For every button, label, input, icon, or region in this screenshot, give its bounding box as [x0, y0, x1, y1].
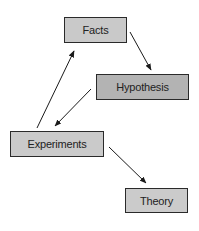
node-theory-label: Theory [140, 195, 173, 207]
node-theory: Theory [125, 188, 188, 213]
arrow-hypothesis-to-experiments [55, 89, 91, 126]
node-experiments: Experiments [10, 131, 104, 157]
node-facts: Facts [64, 17, 127, 43]
node-experiments-label: Experiments [28, 138, 87, 150]
arrow-experiments-to-facts [37, 51, 74, 128]
arrow-facts-to-hypothesis [130, 32, 151, 70]
node-facts-label: Facts [83, 24, 109, 36]
arrow-experiments-to-theory [109, 147, 146, 183]
node-hypothesis-label: Hypothesis [116, 81, 168, 93]
node-hypothesis: Hypothesis [96, 74, 189, 100]
